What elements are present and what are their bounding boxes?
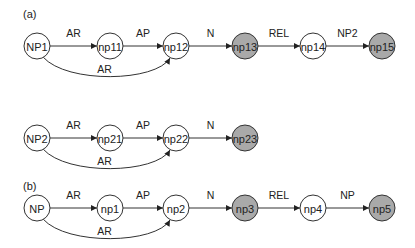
panel-label-b: (b) — [23, 180, 36, 192]
node-label: np4 — [304, 203, 322, 215]
node-label: np14 — [301, 41, 325, 53]
node-label: NP1 — [26, 41, 47, 53]
node-label: np15 — [370, 41, 394, 53]
edge-label: NP2 — [337, 27, 358, 39]
edge-label: NP — [340, 189, 355, 201]
node-label: np22 — [164, 133, 188, 145]
curved-edge-label: AR — [97, 155, 112, 167]
edge-label: AR — [66, 189, 81, 201]
node-label: np11 — [98, 41, 122, 53]
node-label: np23 — [233, 133, 257, 145]
edge-label: AP — [136, 189, 150, 201]
node-label: np1 — [101, 203, 119, 215]
node-label: np21 — [98, 133, 122, 145]
curved-edge-label: AR — [97, 63, 112, 75]
curved-edge-label: AR — [97, 225, 112, 237]
state-diagram: (a) (b) ARAPNRELNP2ARNP1np11np12np13np14… — [0, 0, 415, 248]
edge-label: AR — [66, 119, 81, 131]
node-label: NP — [29, 203, 44, 215]
node-label: np5 — [373, 203, 391, 215]
edge-label: AP — [136, 119, 150, 131]
node-label: np2 — [167, 203, 185, 215]
node-label: np3 — [236, 203, 254, 215]
edge-label: N — [207, 189, 215, 201]
panel-label-a: (a) — [23, 8, 36, 20]
edge-label: REL — [269, 189, 290, 201]
node-label: NP2 — [26, 133, 47, 145]
node-label: np13 — [233, 41, 257, 53]
edge-label: REL — [269, 27, 290, 39]
edge-label: N — [207, 119, 215, 131]
node-label: np12 — [164, 41, 188, 53]
edge-label: AP — [136, 27, 150, 39]
edge-label: N — [207, 27, 215, 39]
edge-label: AR — [66, 27, 81, 39]
